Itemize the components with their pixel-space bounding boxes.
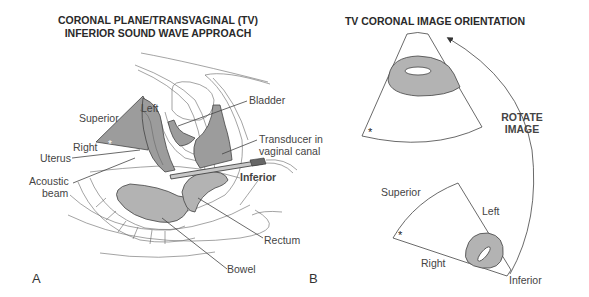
label-uterus: Uterus: [40, 152, 71, 164]
label-bladder: Bladder: [249, 94, 286, 106]
label-transducer-2: vaginal canal: [259, 145, 320, 157]
label-right-b: Right: [421, 257, 446, 269]
label-right-a: Right: [73, 141, 98, 153]
label-acoustic: Acoustic: [29, 175, 69, 187]
rotate-label-1: ROTATE: [501, 111, 543, 123]
panel-b: TV CORONAL IMAGE ORIENTATION * ROTATE IM…: [309, 15, 543, 286]
fan-marker-top: *: [368, 126, 373, 138]
label-inferior-a: Inferior: [240, 171, 276, 183]
fan-unrotated: *: [362, 33, 482, 143]
diagram-canvas: CORONAL PLANE/TRANSVAGINAL (TV) INFERIOR…: [0, 0, 589, 297]
bowel-shape: [117, 184, 189, 223]
label-bowel: Bowel: [227, 263, 256, 275]
fan-marker-a: *: [108, 139, 112, 150]
panel-letter-b: B: [309, 271, 318, 286]
label-left-b: Left: [482, 205, 500, 217]
rotate-label-2: IMAGE: [505, 123, 539, 135]
panel-letter-a: A: [32, 271, 41, 286]
rectum-shape: [182, 172, 228, 212]
panel-b-title: TV CORONAL IMAGE ORIENTATION: [345, 15, 525, 27]
label-inferior-b: Inferior: [509, 274, 542, 286]
label-left-a: Left: [141, 102, 159, 114]
label-superior-b: Superior: [381, 186, 421, 198]
panel-a-title-line1: CORONAL PLANE/TRANSVAGINAL (TV): [58, 14, 258, 26]
panel-a: CORONAL PLANE/TRANSVAGINAL (TV) INFERIOR…: [29, 14, 323, 286]
anatomy-outlines: [68, 53, 282, 257]
label-transducer-1: Transducer in: [259, 133, 323, 145]
cervix-shape: [168, 120, 195, 146]
fan-marker-bottom: *: [398, 229, 403, 241]
label-beam: beam: [42, 187, 69, 199]
label-rectum: Rectum: [264, 234, 300, 246]
leader-lines: [72, 101, 263, 269]
label-superior-a: Superior: [79, 112, 119, 124]
panel-a-title-line2: INFERIOR SOUND WAVE APPROACH: [65, 27, 252, 39]
